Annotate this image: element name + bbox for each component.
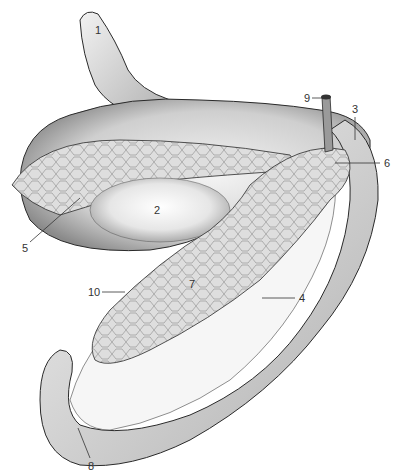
anatomical-figure bbox=[0, 0, 405, 476]
label-10: 10 bbox=[88, 286, 100, 298]
label-3: 3 bbox=[352, 103, 358, 115]
label-8: 8 bbox=[88, 460, 94, 472]
label-1: 1 bbox=[95, 24, 101, 36]
label-9: 9 bbox=[304, 92, 310, 104]
label-5: 5 bbox=[22, 242, 28, 254]
label-4: 4 bbox=[299, 292, 305, 304]
label-6: 6 bbox=[384, 157, 390, 169]
label-2: 2 bbox=[154, 204, 160, 216]
label-7: 7 bbox=[189, 278, 195, 290]
